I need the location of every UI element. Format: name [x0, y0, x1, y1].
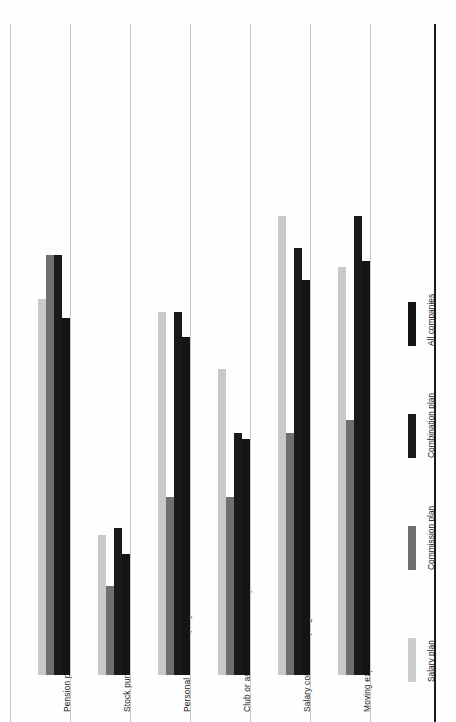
bar-salary — [98, 535, 106, 675]
bar-commission — [226, 497, 234, 675]
bar-allco — [302, 280, 310, 675]
rotated-chart-canvas: Pension planStock purchasePersonal use o… — [0, 0, 456, 722]
bar-combination — [294, 248, 302, 675]
bar-combination — [114, 529, 122, 676]
bar-commission — [346, 420, 354, 675]
bar-group: Pension plan — [16, 0, 76, 722]
bar-group: Club or association membership — [196, 0, 256, 722]
legend-swatch-salary — [408, 638, 416, 682]
value-axis-line — [434, 24, 436, 722]
bar-commission — [106, 586, 114, 675]
group-separator — [10, 24, 11, 722]
bar-commission — [286, 433, 294, 675]
bar-salary — [338, 267, 346, 675]
bar-salary — [278, 216, 286, 675]
bar-group: Personal use of company car — [136, 0, 196, 722]
plot-area: Pension planStock purchasePersonal use o… — [0, 0, 456, 722]
bar-group: Salary continuation program — [256, 0, 316, 722]
bar-combination — [174, 312, 182, 675]
bar-allco — [242, 439, 250, 675]
group-separator — [370, 24, 371, 722]
legend-swatch-commission — [408, 526, 416, 570]
group-separator — [250, 24, 251, 722]
bar-salary — [38, 299, 46, 675]
bar-combination — [234, 433, 242, 675]
bar-salary — [218, 369, 226, 675]
bar-combination — [54, 255, 62, 675]
bar-group: Stock purchase — [76, 0, 136, 722]
group-separator — [130, 24, 131, 722]
legend-swatch-allco — [408, 302, 416, 346]
bar-allco — [122, 554, 130, 675]
bar-commission — [166, 497, 174, 675]
bar-salary — [158, 312, 166, 675]
chart-legend: Salary planCommission planCombination pl… — [382, 0, 442, 722]
bar-combination — [354, 216, 362, 675]
bar-commission — [46, 255, 54, 675]
bar-allco — [182, 337, 190, 675]
bar-group: Moving expense reimbursement — [316, 0, 376, 722]
bar-allco — [62, 318, 70, 675]
group-separator — [70, 24, 71, 722]
group-separator — [190, 24, 191, 722]
group-separator — [310, 24, 311, 722]
bar-allco — [362, 261, 370, 675]
chart-figure: Pension planStock purchasePersonal use o… — [0, 0, 456, 722]
legend-swatch-combination — [408, 414, 416, 458]
